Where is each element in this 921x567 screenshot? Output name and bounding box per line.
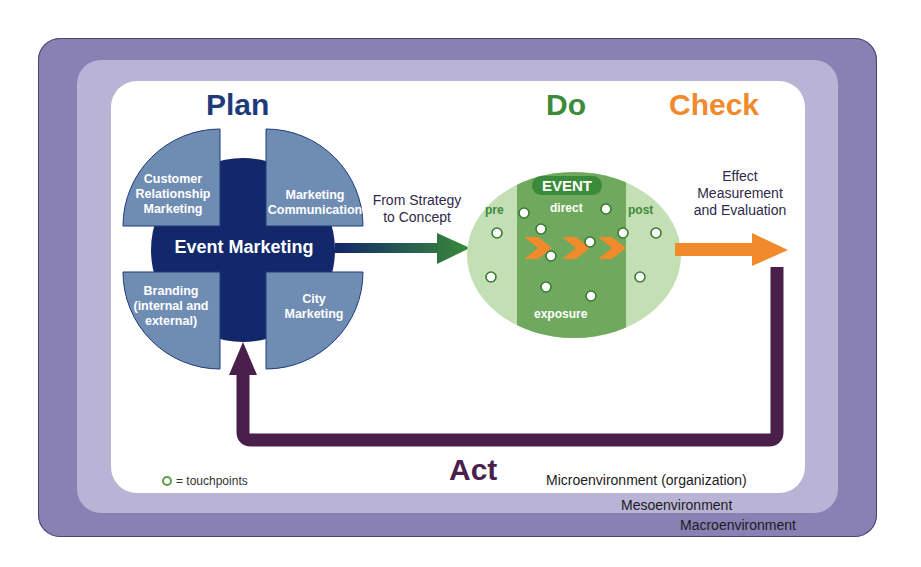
- phase-check-title: Check: [669, 90, 759, 120]
- touchpoints-legend: = touchpoints: [162, 474, 248, 488]
- phase-do-title: Do: [546, 90, 586, 120]
- quadrant-label-crm: Customer Relationship Marketing: [128, 172, 218, 217]
- touchpoint-legend-icon: [162, 476, 172, 486]
- quadrant-label-branding: Branding (internal and external): [123, 284, 219, 329]
- event-post-label: post: [628, 203, 653, 217]
- phase-plan-title: Plan: [206, 90, 269, 120]
- check-arrow: [675, 233, 788, 266]
- event-marketing-label: Event Marketing: [150, 237, 338, 258]
- event-badge: EVENT: [532, 176, 602, 195]
- strategy-to-concept-label: From Strategy to Concept: [362, 192, 472, 226]
- event-direct-label: direct: [550, 201, 583, 215]
- effect-measurement-label: Effect Measurement and Evaluation: [680, 168, 800, 219]
- event-exposure-label: exposure: [534, 307, 587, 321]
- phase-act-title: Act: [449, 455, 497, 485]
- meso-env-label: Mesoenvironment: [621, 497, 732, 513]
- legend-text: = touchpoints: [176, 474, 248, 488]
- strategy-arrow: [335, 233, 470, 264]
- quadrant-label-city: City Marketing: [268, 292, 360, 322]
- micro-env-label: Microenvironment (organization): [546, 472, 747, 488]
- event-pre-label: pre: [485, 203, 504, 217]
- quadrant-label-marcom: Marketing Communication: [265, 188, 365, 218]
- macro-env-label: Macroenvironment: [680, 517, 796, 533]
- act-arrowhead: [229, 342, 257, 375]
